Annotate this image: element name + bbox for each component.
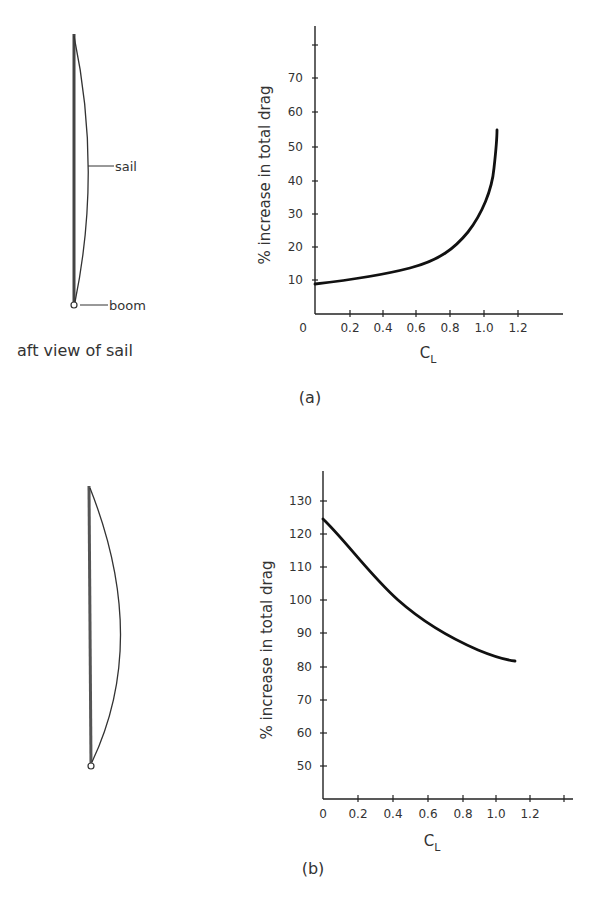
- boom-marker-b: [88, 763, 94, 769]
- svg-text:110: 110: [289, 560, 312, 574]
- svg-text:70: 70: [297, 693, 312, 707]
- sail-sketch-b: [88, 486, 121, 769]
- sail-outline-a: [74, 36, 88, 302]
- svg-text:120: 120: [289, 527, 312, 541]
- svg-text:1.2: 1.2: [508, 321, 527, 335]
- x-tick-labels-a: 0 0.2 0.4 0.6 0.8 1.0 1.2: [299, 321, 527, 335]
- svg-text:80: 80: [297, 660, 312, 674]
- panel-caption-a: (a): [299, 388, 321, 407]
- sail-outline-b: [90, 488, 121, 762]
- panel-caption-b: (b): [302, 859, 325, 878]
- y-axis-label-a: % increase in total drag: [256, 86, 274, 265]
- svg-text:40: 40: [288, 174, 303, 188]
- x-tick-labels-b: 0 0.2 0.4 0.6 0.8 1.0 1.2: [319, 807, 539, 821]
- svg-text:1.0: 1.0: [486, 807, 505, 821]
- svg-text:10: 10: [288, 273, 303, 287]
- y-tick-labels-b: 130 120 110 100 90 80 70 60 50: [289, 494, 312, 773]
- svg-text:20: 20: [288, 240, 303, 254]
- series-line-a: [315, 130, 497, 284]
- svg-text:90: 90: [297, 626, 312, 640]
- svg-text:1.0: 1.0: [474, 321, 493, 335]
- boom-label: boom: [109, 298, 146, 313]
- svg-text:0.4: 0.4: [383, 807, 402, 821]
- y-tick-labels-a: 70 60 50 40 30 20 10: [288, 71, 303, 287]
- x-axis-label-b: CL: [424, 832, 441, 854]
- svg-text:50: 50: [288, 140, 303, 154]
- svg-text:0: 0: [299, 321, 307, 335]
- svg-text:100: 100: [289, 593, 312, 607]
- svg-text:0: 0: [319, 807, 327, 821]
- svg-text:0.8: 0.8: [440, 321, 459, 335]
- figure-canvas: sail boom aft view of sail 70 60 50 40 3…: [0, 0, 589, 904]
- svg-text:0.8: 0.8: [453, 807, 472, 821]
- chart-a: 70 60 50 40 30 20 10 0 0.2 0.4 0.6 0.8 1…: [256, 26, 563, 407]
- chart-b: 130 120 110 100 90 80 70 60 50 0 0.2 0.4…: [258, 471, 573, 878]
- sketch-caption: aft view of sail: [17, 341, 133, 360]
- svg-text:60: 60: [288, 105, 303, 119]
- y-axis-label-b: % increase in total drag: [258, 561, 276, 740]
- svg-text:0.2: 0.2: [340, 321, 359, 335]
- svg-text:0.2: 0.2: [348, 807, 367, 821]
- svg-text:130: 130: [289, 494, 312, 508]
- series-line-b: [323, 519, 515, 661]
- boom-marker-a: [71, 302, 77, 308]
- svg-text:0.4: 0.4: [373, 321, 392, 335]
- svg-text:1.2: 1.2: [520, 807, 539, 821]
- svg-text:60: 60: [297, 726, 312, 740]
- svg-text:0.6: 0.6: [418, 807, 437, 821]
- svg-text:30: 30: [288, 207, 303, 221]
- svg-text:50: 50: [297, 759, 312, 773]
- svg-text:70: 70: [288, 71, 303, 85]
- x-axis-label-a: CL: [420, 344, 437, 366]
- mast-b: [89, 486, 91, 764]
- sail-sketch-a: sail boom aft view of sail: [17, 34, 146, 360]
- svg-text:0.6: 0.6: [406, 321, 425, 335]
- sail-label: sail: [115, 159, 137, 174]
